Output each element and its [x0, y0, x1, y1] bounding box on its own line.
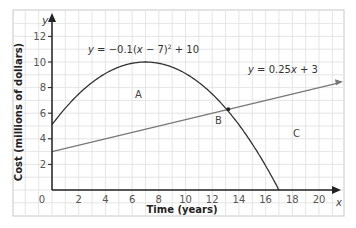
- x-axis-label: Time (years): [146, 204, 217, 215]
- x-axis-symbol: x: [335, 197, 342, 208]
- y-tick-label: 10: [33, 57, 46, 68]
- x-tick-label: 18: [286, 194, 299, 205]
- y-tick-label: 8: [40, 82, 46, 93]
- x-tick-label: 20: [313, 194, 326, 205]
- y-tick-label: 6: [40, 108, 46, 119]
- parabola-equation-label: y = −0.1(x − 7)2 + 10: [87, 43, 199, 55]
- grid: [14, 11, 343, 215]
- y-tick-label: 4: [40, 133, 46, 144]
- region-label-b: B: [215, 115, 222, 126]
- intersection-point: [226, 107, 230, 111]
- x-tick-label: 2: [76, 194, 82, 205]
- y-axis-arrow-icon: [48, 13, 56, 22]
- region-label-c: C: [293, 128, 300, 139]
- linear-line: [52, 83, 339, 152]
- x-tick-label: 6: [129, 194, 135, 205]
- line-equation-label: y = 0.25x + 3: [247, 64, 318, 75]
- y-axis-symbol: y: [41, 14, 49, 27]
- line-arrow-icon: [335, 79, 343, 85]
- y-axis-label: Cost (millions of dollars): [13, 43, 24, 181]
- x-tick-label: 14: [233, 194, 246, 205]
- x-tick-label: 4: [102, 194, 108, 205]
- x-axis-arrow-icon: [332, 186, 341, 194]
- chart: 0246810121416182024681012 y x Time (year…: [0, 0, 356, 228]
- x-tick-label: 0: [39, 194, 45, 205]
- y-tick-label: 2: [40, 159, 46, 170]
- region-label-a: A: [135, 89, 142, 100]
- ticks: 0246810121416182024681012: [33, 31, 325, 205]
- y-tick-label: 12: [33, 31, 46, 42]
- x-tick-label: 16: [259, 194, 272, 205]
